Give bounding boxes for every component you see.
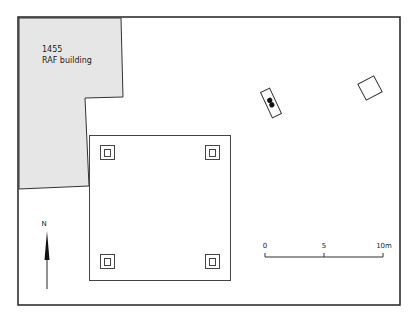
rotated-rect-feature [261,88,282,118]
post-pad-se [206,255,220,269]
post-pad-nw [101,146,115,160]
building-number: 1455 [42,45,62,54]
scale-tick-10m: 10m [376,242,392,250]
north-arrow-head-icon [45,231,50,260]
site-plan: 1455 RAF building N 0 5 10m [0,0,417,321]
post-pad-ne [206,146,220,160]
scale-bar: 0 5 10m [263,242,392,257]
post-pad-sw [101,255,115,269]
rotated-square-feature [358,76,382,100]
scale-tick-5: 5 [322,242,326,250]
scale-tick-0: 0 [263,242,267,250]
north-arrow: N [41,220,49,289]
north-label: N [41,220,46,228]
raf-building [19,18,123,189]
building-name: RAF building [42,56,92,65]
